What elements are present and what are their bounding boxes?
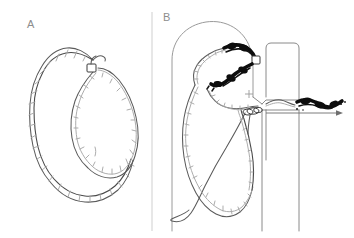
panel-b-membrane-group <box>172 22 299 231</box>
dna-small-loop-helix-ticks <box>74 73 136 174</box>
charge-plus-symbol <box>245 90 253 98</box>
dna-b-upper-left-wave-2 <box>197 50 226 84</box>
dna-b-pore-helix-ticks <box>212 95 248 109</box>
dna-b-to-pore-strand-1 <box>207 89 258 109</box>
dna-large-loop-helix-ticks <box>29 50 134 202</box>
dna-small-loop-strand-1 <box>71 68 138 178</box>
figure-canvas: A <box>0 0 354 238</box>
dna-knot-ring-2 <box>243 109 253 115</box>
chamber-right-wall <box>253 97 262 104</box>
membrane-wall-upper-right <box>266 43 299 100</box>
arrow-head-icon <box>336 110 343 116</box>
membrane-wall-lower-right <box>266 110 299 231</box>
dna-large-loop-strand-1 <box>30 48 133 202</box>
dna-b-knot-descend <box>248 115 250 134</box>
dna-b-descend-left <box>183 85 253 216</box>
panel-b-exit-dna-group <box>266 96 346 115</box>
membrane-capsid-outline <box>172 22 253 231</box>
panel-label-b: B <box>163 11 171 23</box>
dna-b-upper-left-wave-1 <box>194 48 224 85</box>
diagram-svg: A <box>0 0 354 238</box>
dna-knot-ring-3 <box>254 107 262 112</box>
dna-inner-wisp <box>95 147 96 156</box>
dna-b-lower-loop-strand-1 <box>171 113 245 222</box>
panel-b-dna-group <box>171 42 262 222</box>
protein-square-marker-a <box>87 64 96 72</box>
translocation-direction-arrow <box>266 110 343 116</box>
dna-b-ascend-right <box>241 109 254 190</box>
panel-label-a: A <box>27 18 35 30</box>
panel-a-dna-group <box>29 48 138 202</box>
dna-large-loop-strand-2 <box>34 52 131 196</box>
